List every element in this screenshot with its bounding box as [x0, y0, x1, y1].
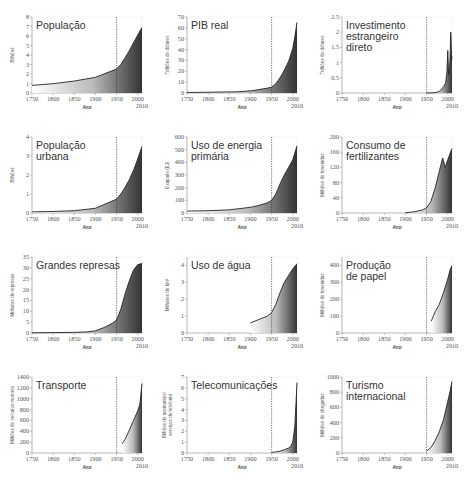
svg-text:2010: 2010 — [291, 462, 303, 469]
svg-text:40: 40 — [333, 194, 339, 201]
svg-text:400: 400 — [330, 261, 339, 268]
svg-text:200: 200 — [330, 295, 339, 302]
svg-text:1850: 1850 — [378, 95, 390, 102]
svg-text:1000: 1000 — [327, 373, 339, 380]
svg-text:7: 7 — [181, 373, 184, 380]
svg-text:1800: 1800 — [357, 335, 369, 342]
svg-text:500: 500 — [175, 146, 184, 153]
svg-text:1: 1 — [26, 80, 29, 87]
svg-text:6: 6 — [181, 384, 184, 391]
svg-text:4: 4 — [26, 51, 29, 58]
svg-text:35: 35 — [23, 253, 29, 260]
svg-text:2010: 2010 — [446, 342, 458, 349]
svg-text:1850: 1850 — [68, 455, 80, 462]
svg-text:4: 4 — [181, 406, 184, 413]
svg-text:8: 8 — [26, 13, 29, 20]
svg-text:1900: 1900 — [89, 455, 101, 462]
svg-text:Milhares de km³: Milhares de km³ — [165, 278, 170, 311]
svg-text:1750: 1750 — [26, 455, 38, 462]
svg-text:1: 1 — [181, 438, 184, 445]
svg-text:400: 400 — [330, 419, 339, 426]
svg-text:1950: 1950 — [420, 215, 432, 222]
chart-energia: 0100200300400500600175018001850190019502… — [155, 120, 310, 240]
svg-text:2: 2 — [181, 295, 184, 302]
svg-text:Trilhões de dólares: Trilhões de dólares — [165, 35, 170, 75]
svg-text:1750: 1750 — [336, 455, 348, 462]
svg-text:Ano: Ano — [237, 225, 247, 230]
svg-text:1000: 1000 — [17, 395, 29, 402]
svg-text:2.5: 2.5 — [331, 13, 339, 20]
svg-text:2000: 2000 — [132, 215, 144, 222]
svg-text:Milhões de chegadas: Milhões de chegadas — [320, 393, 325, 437]
svg-text:200: 200 — [175, 184, 184, 191]
svg-text:Bilhões de assinantes/: Bilhões de assinantes/ — [162, 391, 167, 438]
svg-text:400: 400 — [175, 158, 184, 165]
svg-text:20: 20 — [23, 286, 29, 293]
svg-text:2000: 2000 — [287, 335, 299, 342]
svg-text:serviços de telefonia: serviços de telefonia — [168, 394, 173, 436]
svg-text:1850: 1850 — [68, 215, 80, 222]
svg-text:1750: 1750 — [181, 455, 193, 462]
svg-text:200: 200 — [20, 438, 29, 445]
svg-text:600: 600 — [20, 416, 29, 423]
svg-text:2000: 2000 — [287, 455, 299, 462]
chart-populacao: 0123456781750180018501900195020002010Ano… — [0, 0, 155, 120]
svg-text:Exajoule (EJ): Exajoule (EJ) — [165, 161, 170, 189]
svg-text:1750: 1750 — [336, 215, 348, 222]
svg-text:1950: 1950 — [420, 455, 432, 462]
svg-text:1750: 1750 — [336, 335, 348, 342]
svg-text:4: 4 — [181, 261, 184, 268]
svg-text:1900: 1900 — [244, 215, 256, 222]
svg-text:0.5: 0.5 — [331, 74, 339, 81]
svg-text:2010: 2010 — [136, 102, 148, 109]
svg-text:2000: 2000 — [287, 215, 299, 222]
svg-text:100: 100 — [330, 312, 339, 319]
svg-text:Milhares de represas: Milhares de represas — [10, 273, 15, 317]
svg-text:1.5: 1.5 — [331, 43, 339, 50]
svg-text:30: 30 — [23, 264, 29, 271]
svg-text:1850: 1850 — [223, 95, 235, 102]
svg-text:1900: 1900 — [244, 335, 256, 342]
svg-text:PIB real: PIB real — [191, 19, 228, 31]
svg-text:1950: 1950 — [420, 335, 432, 342]
svg-text:1800: 1800 — [357, 95, 369, 102]
svg-text:1750: 1750 — [26, 215, 38, 222]
svg-text:300: 300 — [175, 171, 184, 178]
svg-text:1850: 1850 — [68, 95, 80, 102]
svg-text:Grandes represas: Grandes represas — [36, 259, 120, 271]
svg-text:2: 2 — [26, 171, 29, 178]
svg-text:2: 2 — [26, 70, 29, 77]
svg-text:2010: 2010 — [291, 102, 303, 109]
svg-text:400: 400 — [20, 427, 29, 434]
svg-text:800: 800 — [330, 388, 339, 395]
svg-text:2010: 2010 — [136, 462, 148, 469]
svg-text:1900: 1900 — [244, 455, 256, 462]
svg-text:1850: 1850 — [223, 455, 235, 462]
svg-text:1750: 1750 — [26, 335, 38, 342]
svg-text:Telecomunicações: Telecomunicações — [191, 379, 277, 391]
svg-text:1800: 1800 — [47, 335, 59, 342]
svg-text:10: 10 — [23, 307, 29, 314]
svg-text:Milhões de toneladas: Milhões de toneladas — [320, 273, 325, 317]
svg-text:Transporte: Transporte — [36, 379, 87, 391]
svg-text:2000: 2000 — [442, 335, 454, 342]
svg-text:Ano: Ano — [82, 465, 92, 470]
chart-telecom: 012345671750180018501900195020002010AnoB… — [155, 360, 310, 480]
chart-agua: 012341750180018501900195020002010AnoMilh… — [155, 240, 310, 360]
svg-text:800: 800 — [20, 406, 29, 413]
svg-text:Ano: Ano — [392, 105, 402, 110]
svg-text:2000: 2000 — [132, 335, 144, 342]
svg-text:População: População — [36, 19, 86, 31]
chart-pib_real: 0102030405060701750180018501900195020002… — [155, 0, 310, 120]
svg-text:internacional: internacional — [346, 390, 406, 402]
svg-text:primária: primária — [191, 150, 229, 162]
svg-text:70: 70 — [178, 13, 184, 20]
svg-text:600: 600 — [330, 403, 339, 410]
svg-text:1950: 1950 — [110, 455, 122, 462]
svg-text:Bilhões: Bilhões — [10, 167, 15, 183]
svg-text:60: 60 — [178, 24, 184, 31]
svg-text:2010: 2010 — [446, 102, 458, 109]
svg-text:1750: 1750 — [181, 215, 193, 222]
svg-text:Ano: Ano — [237, 345, 247, 350]
svg-text:1950: 1950 — [420, 95, 432, 102]
